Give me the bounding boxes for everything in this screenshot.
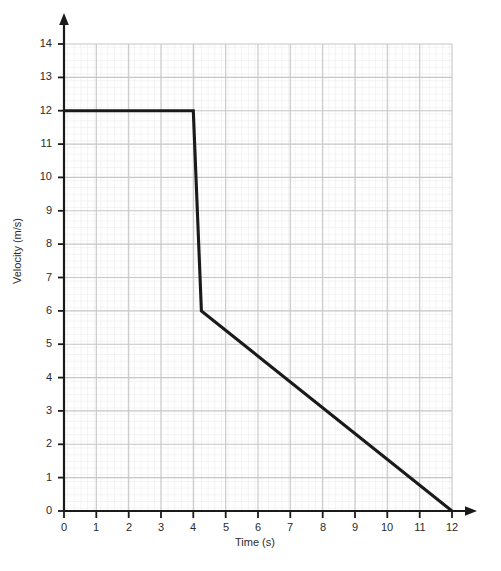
y-tick-label: 9 (26, 204, 52, 216)
y-tick-label: 11 (26, 137, 52, 149)
y-tick-label: 0 (26, 504, 52, 516)
y-tick-label: 13 (26, 70, 52, 82)
y-tick-label: 4 (26, 371, 52, 383)
x-tick-label: 8 (311, 521, 335, 533)
x-tick-label: 10 (375, 521, 399, 533)
y-tick-label: 6 (26, 304, 52, 316)
y-tick-label: 7 (26, 271, 52, 283)
y-tick-label: 8 (26, 237, 52, 249)
x-tick-label: 5 (214, 521, 238, 533)
x-tick-label: 0 (52, 521, 76, 533)
x-tick-label: 1 (84, 521, 108, 533)
x-tick-label: 4 (181, 521, 205, 533)
x-tick-label: 2 (117, 521, 141, 533)
y-tick-label: 5 (26, 337, 52, 349)
x-tick-label: 3 (149, 521, 173, 533)
y-tick-label: 1 (26, 471, 52, 483)
x-axis-title: Time (s) (205, 536, 305, 548)
y-axis-arrowhead (59, 13, 69, 25)
x-tick-label: 9 (343, 521, 367, 533)
x-tick-label: 12 (440, 521, 464, 533)
velocity-time-chart: 14 13 12 11 10 9 8 7 6 5 4 3 2 1 0 0 1 2… (0, 0, 501, 571)
chart-canvas (0, 0, 501, 571)
y-tick-label: 12 (26, 104, 52, 116)
y-tick-label: 10 (26, 170, 52, 182)
x-tick-label: 7 (278, 521, 302, 533)
y-axis-title: Velocity (m/s) (11, 196, 23, 306)
y-tick-label: 14 (26, 37, 52, 49)
x-tick-label: 11 (408, 521, 432, 533)
x-axis-arrowhead (465, 506, 477, 516)
y-tick-label: 2 (26, 437, 52, 449)
x-tick-label: 6 (246, 521, 270, 533)
y-tick-label: 3 (26, 404, 52, 416)
